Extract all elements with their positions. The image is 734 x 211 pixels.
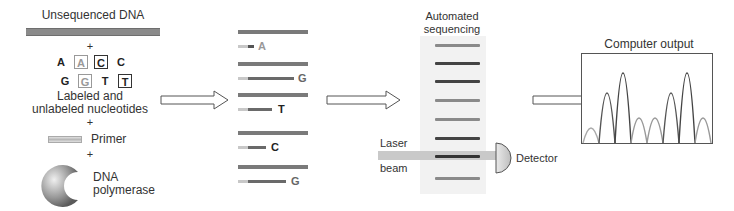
fragment-terminal-base: G — [298, 72, 307, 84]
computer-output-chart — [581, 53, 713, 144]
fragment-terminal-base: A — [258, 40, 266, 52]
gel-band — [435, 80, 480, 83]
plus-sign: + — [80, 148, 100, 160]
gel-band — [435, 137, 480, 140]
sequencing-title-line1: Automated — [412, 10, 492, 22]
nucleotide-t-labeled: T — [118, 74, 132, 88]
nucleotide-c-labeled: C — [94, 55, 108, 69]
nucleotide-g: G — [58, 74, 72, 88]
fragment-terminal-base: T — [278, 103, 285, 115]
nucleotide-t: T — [98, 74, 112, 88]
nucleotide-c: C — [114, 55, 128, 69]
template-strand — [238, 62, 308, 66]
arrow-right-icon — [160, 90, 230, 110]
nucleotides-label-line2: unlabeled nucleotides — [10, 102, 170, 116]
nucleotide-g-labeled: G — [78, 74, 92, 88]
primer-icon — [48, 136, 82, 143]
fragment-terminal-base: G — [291, 175, 300, 187]
laser-label-line1: Laser — [380, 137, 408, 149]
plus-sign: + — [80, 40, 100, 52]
dna-polymerase-icon — [38, 164, 84, 208]
unsequenced-dna-strand — [26, 28, 160, 36]
laser-label-line2: beam — [380, 162, 408, 174]
fragment-group-g1: G — [238, 62, 318, 84]
template-strand — [238, 30, 308, 34]
unsequenced-dna-label: Unsequenced DNA — [18, 8, 168, 22]
gel-band — [435, 44, 480, 47]
fragment-group-c: C — [238, 131, 318, 153]
fragment-group-t: T — [238, 93, 318, 115]
detector-icon — [494, 142, 514, 174]
template-strand — [238, 93, 308, 97]
fragment-group-g2: G — [238, 165, 318, 187]
nucleotide-a-labeled: A — [74, 55, 88, 69]
arrow-right-icon — [326, 90, 402, 110]
nucleotides-row-1: A A C C — [54, 55, 144, 69]
sequencing-title-line2: sequencing — [412, 23, 492, 35]
template-strand — [238, 131, 308, 135]
gel-band — [435, 118, 480, 121]
gel-band — [435, 177, 480, 180]
computer-output-title: Computer output — [580, 37, 718, 51]
nucleotides-row-2: G G T T — [58, 74, 148, 88]
fragment-terminal-base: C — [271, 141, 279, 153]
template-strand — [238, 165, 308, 169]
detector-label: Detector — [516, 152, 558, 164]
sequencing-gel — [420, 36, 486, 194]
gel-band — [435, 155, 480, 158]
plus-sign: + — [80, 116, 100, 128]
primer-label: Primer — [91, 132, 126, 146]
nucleotide-a: A — [54, 55, 68, 69]
nucleotides-label-line1: Labeled and — [10, 89, 170, 103]
fragment-group-a: A — [238, 30, 308, 52]
polymerase-label-line2: polymerase — [93, 183, 155, 197]
polymerase-label-line1: DNA — [93, 170, 118, 184]
gel-band — [435, 62, 480, 65]
gel-band — [435, 99, 480, 102]
